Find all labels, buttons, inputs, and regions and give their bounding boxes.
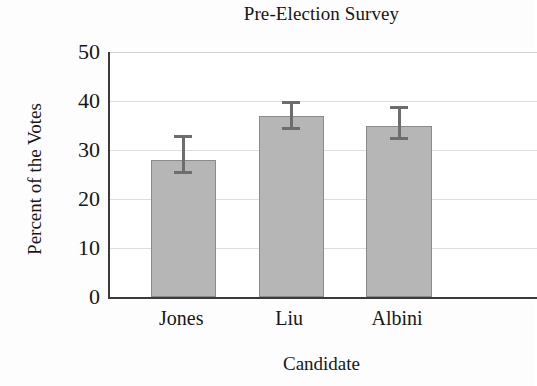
x-tick-label-albini: Albini [341,305,453,331]
error-bar-stem [398,106,401,140]
error-bar-cap-top [174,135,192,138]
error-bar-cap-top [390,106,408,109]
gridline-40 [110,101,537,102]
error-bar-cap-bottom [174,171,192,174]
error-bar-stem [290,101,293,130]
y-tick-label-20: 20 [40,188,100,210]
error-bar-cap-bottom [390,137,408,140]
x-axis-title: Candidate [108,352,535,376]
x-axis-tick-labels: Jones Liu Albini [108,305,535,339]
x-tick-label-jones: Jones [125,305,237,331]
error-bar-cap-bottom [282,127,300,130]
gridline-50 [110,52,537,53]
y-tick-label-50: 50 [40,41,100,63]
y-tick-label-0: 0 [40,286,100,308]
bar-jones[interactable] [151,160,216,297]
x-tick-label-liu: Liu [233,305,345,331]
error-bar-stem [182,135,185,174]
plot-area [108,52,537,299]
bar-liu[interactable] [259,116,324,297]
bar-albini[interactable] [366,126,431,298]
error-bar-cap-top [282,101,300,104]
y-tick-label-30: 30 [40,139,100,161]
y-axis-tick-labels: 50 40 30 20 10 0 [38,0,100,386]
y-tick-label-10: 10 [40,237,100,259]
y-tick-label-40: 40 [40,90,100,112]
chart-title: Pre-Election Survey [108,1,535,27]
